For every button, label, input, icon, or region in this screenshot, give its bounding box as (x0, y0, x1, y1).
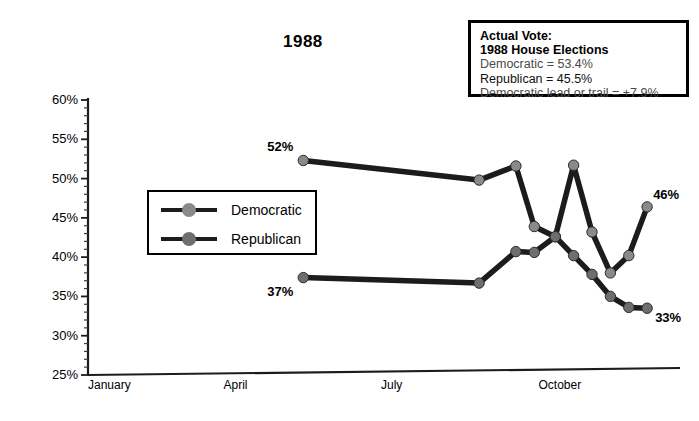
series-layer (298, 155, 652, 313)
annotation-row-republican: Republican = 45.5% (480, 72, 686, 87)
label-republican-last: 33% (655, 310, 681, 325)
label-republican-first: 37% (267, 284, 293, 299)
x-axis-tick-label: April (224, 378, 248, 392)
legend-marker-republican-icon (161, 232, 217, 246)
x-axis-tick-label: October (539, 378, 582, 392)
label-democratic-last: 46% (653, 187, 679, 202)
annotation-row-lead: Democratic lead or trail = +7.9% (480, 86, 686, 101)
chart-root: 1988 60%55%50%45%40%35%30%25% JanuaryApr… (0, 0, 699, 421)
legend-label-republican: Republican (231, 231, 301, 247)
label-democratic-first: 52% (267, 139, 293, 154)
annotation-title-line-1: Actual Vote: (480, 29, 686, 43)
legend-item-democratic: Democratic (149, 197, 315, 223)
y-axis-tick-label: 30% (30, 328, 78, 343)
y-axis-tick-label: 35% (30, 288, 78, 303)
y-axis-tick-label: 25% (30, 367, 78, 382)
y-axis-tick-label: 45% (30, 210, 78, 225)
x-axis-tick-label: July (381, 378, 402, 392)
y-axis-tick-label: 55% (30, 131, 78, 146)
chart-legend: Democratic Republican (147, 190, 317, 255)
legend-label-democratic: Democratic (231, 202, 302, 218)
y-axis-tick-label: 40% (30, 249, 78, 264)
y-axis-tick-label: 50% (30, 171, 78, 186)
x-axis-tick-label: January (88, 378, 131, 392)
annotation-row-democratic: Democratic = 53.4% (480, 57, 686, 72)
legend-marker-democratic-icon (161, 203, 217, 217)
y-axis-tick-label: 60% (30, 92, 78, 107)
legend-item-republican: Republican (149, 226, 315, 252)
actual-vote-annotation: Actual Vote: 1988 House Elections Democr… (468, 20, 689, 97)
annotation-title-line-2: 1988 House Elections (480, 43, 686, 57)
